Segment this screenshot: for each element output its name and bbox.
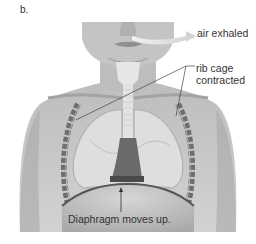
- rib-cage-label: rib cage contracted: [196, 62, 245, 86]
- exhalation-figure: b. air exhaled rib cage contracted Diaph…: [0, 0, 256, 244]
- panel-label: b.: [20, 4, 28, 15]
- head: [82, 22, 174, 68]
- diaphragm-center: [110, 176, 144, 182]
- rib-cage-label-line2: contracted: [196, 74, 245, 86]
- rib-cage-label-line1: rib cage: [196, 62, 245, 74]
- diaphragm-label: Diaphragm moves up.: [68, 213, 171, 225]
- air-exhaled-label: air exhaled: [197, 27, 248, 39]
